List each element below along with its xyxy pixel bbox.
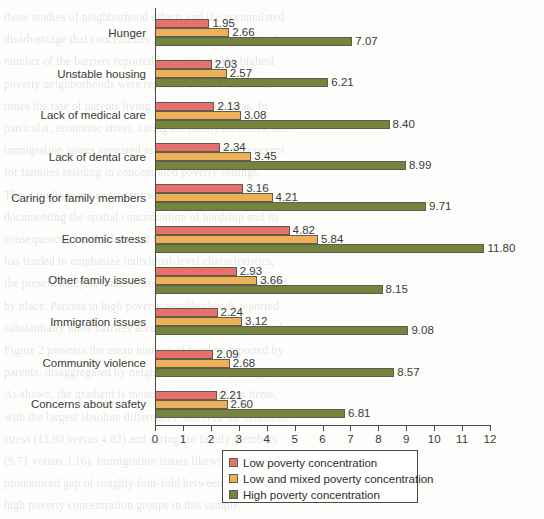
y-axis-line — [155, 8, 156, 426]
bar — [155, 267, 237, 276]
bar — [155, 317, 242, 326]
bar — [155, 391, 217, 400]
bar — [155, 143, 220, 152]
category-label: Community violence — [0, 357, 150, 369]
x-axis-tick-label: 10 — [422, 433, 446, 445]
bar — [155, 368, 394, 377]
bar — [155, 161, 406, 170]
x-axis-tick — [490, 426, 491, 431]
bar — [155, 111, 241, 120]
bar-value-label: 9.71 — [429, 201, 451, 212]
bar — [155, 326, 408, 335]
grouped-bar-chart: Hunger1.952.667.07Unstable housing2.032.… — [0, 0, 544, 519]
category-label: Other family issues — [0, 274, 150, 286]
bar — [155, 350, 213, 359]
bar — [155, 78, 328, 87]
x-axis-tick-label: 1 — [171, 433, 195, 445]
bar — [155, 19, 209, 28]
category-label: Hunger — [0, 27, 150, 39]
bar — [155, 226, 290, 235]
x-axis-tick — [434, 426, 435, 431]
category-label: Lack of dental care — [0, 151, 150, 163]
x-axis-tick-label: 4 — [255, 433, 279, 445]
x-axis-tick — [155, 426, 156, 431]
bar-value-label: 8.40 — [393, 119, 415, 130]
bar — [155, 193, 273, 202]
bar — [155, 244, 484, 253]
chart-legend: Low poverty concentration Low and mixed … — [222, 450, 418, 503]
bar-value-label: 8.57 — [397, 367, 419, 378]
x-axis-tick-label: 5 — [283, 433, 307, 445]
bar — [155, 69, 227, 78]
category-label: Caring for family members — [0, 192, 150, 204]
bar — [155, 184, 243, 193]
bar — [155, 60, 212, 69]
bar — [155, 276, 257, 285]
bar — [155, 409, 345, 418]
x-axis-tick — [267, 426, 268, 431]
legend-item: Low poverty concentration — [229, 455, 417, 470]
legend-label: Low and mixed poverty concentration — [243, 473, 434, 485]
bar-value-label: 7.07 — [355, 36, 377, 47]
x-axis-tick — [211, 426, 212, 431]
x-axis-tick — [462, 426, 463, 431]
bar-value-label: 11.80 — [487, 243, 515, 254]
x-axis-tick-label: 8 — [366, 433, 390, 445]
bar-value-label: 8.99 — [409, 160, 431, 171]
bar-value-label: 6.81 — [348, 408, 370, 419]
x-axis-tick — [295, 426, 296, 431]
x-axis-tick-label: 2 — [199, 433, 223, 445]
category-label: Economic stress — [0, 233, 150, 245]
x-axis-tick — [350, 426, 351, 431]
bar — [155, 102, 214, 111]
figure-page: those studies of neighborhood effects an… — [0, 0, 544, 519]
bar — [155, 308, 218, 317]
x-axis-tick-label: 11 — [450, 433, 474, 445]
x-axis-tick-label: 9 — [394, 433, 418, 445]
bar — [155, 120, 390, 129]
bar — [155, 285, 383, 294]
bar — [155, 202, 426, 211]
legend-swatch-low-poverty — [229, 458, 238, 467]
bar — [155, 235, 318, 244]
legend-label: Low poverty concentration — [243, 457, 377, 469]
x-axis-tick-label: 6 — [311, 433, 335, 445]
x-axis-tick — [378, 426, 379, 431]
x-axis-tick — [323, 426, 324, 431]
legend-swatch-high-poverty — [229, 490, 238, 499]
x-axis-tick-label: 0 — [143, 433, 167, 445]
x-axis-tick-label: 3 — [227, 433, 251, 445]
bar — [155, 37, 352, 46]
bar-value-label: 8.15 — [386, 284, 408, 295]
bar — [155, 152, 251, 161]
x-axis-tick — [239, 426, 240, 431]
legend-label: High poverty concentration — [243, 489, 380, 501]
legend-item: Low and mixed poverty concentration — [229, 471, 417, 486]
category-label: Immigration issues — [0, 316, 150, 328]
category-label: Lack of medical care — [0, 109, 150, 121]
legend-item: High poverty concentration — [229, 487, 417, 502]
category-label: Concerns about safety — [0, 398, 150, 410]
x-axis-tick — [406, 426, 407, 431]
bar-value-label: 9.08 — [411, 325, 433, 336]
bar — [155, 359, 230, 368]
bar — [155, 28, 229, 37]
bar — [155, 400, 228, 409]
x-axis-tick-label: 12 — [478, 433, 502, 445]
category-label: Unstable housing — [0, 68, 150, 80]
bar-value-label: 6.21 — [331, 77, 353, 88]
x-axis-tick-label: 7 — [338, 433, 362, 445]
legend-swatch-low-and-mixed-poverty — [229, 474, 238, 483]
x-axis-tick — [183, 426, 184, 431]
